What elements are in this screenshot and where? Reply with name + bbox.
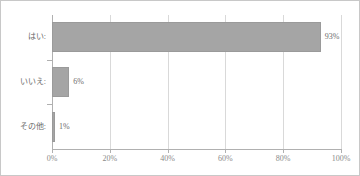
y-tick-2 xyxy=(47,104,52,105)
category-label: はい: xyxy=(28,33,46,41)
x-tick-20 xyxy=(110,149,111,153)
x-tick-60 xyxy=(225,149,226,153)
bar-value-label: 6% xyxy=(73,78,84,86)
bar xyxy=(52,112,55,142)
x-tick-40 xyxy=(168,149,169,153)
y-tick-1 xyxy=(47,60,52,61)
bar-value-label: 1% xyxy=(59,123,70,131)
x-tick-100 xyxy=(341,149,342,153)
x-axis-tick-label: 40% xyxy=(160,155,175,163)
bar xyxy=(52,22,321,52)
x-tick-80 xyxy=(283,149,284,153)
x-axis-tick-label: 80% xyxy=(276,155,291,163)
bar-value-label: 93% xyxy=(325,33,340,41)
x-tick-0 xyxy=(52,149,53,153)
x-axis-tick-label: 100% xyxy=(332,155,351,163)
x-axis-line xyxy=(52,149,342,150)
x-axis-tick-label: 0% xyxy=(47,155,58,163)
bar xyxy=(52,67,69,97)
category-label: その他: xyxy=(20,123,46,131)
x-axis-tick-label: 20% xyxy=(102,155,117,163)
category-label: いいえ: xyxy=(20,78,46,86)
chart-container: 93%6%1% はい:いいえ:その他: 0%20%40%60%80%100% xyxy=(0,0,360,176)
x-axis-tick-label: 60% xyxy=(218,155,233,163)
gridline-100 xyxy=(341,15,342,149)
